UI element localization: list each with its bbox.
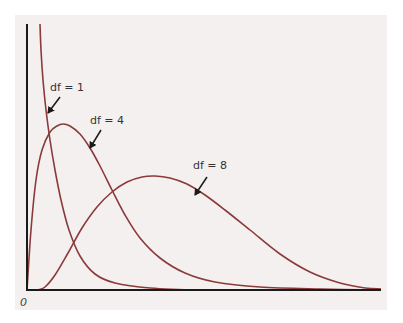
arrow-icon — [48, 97, 60, 113]
label-df-8: df = 8 — [193, 159, 227, 172]
origin-label: 0 — [20, 296, 27, 309]
label-df-1: df = 1 — [50, 81, 84, 94]
curves — [27, 24, 381, 290]
curve-df-4 — [27, 124, 381, 290]
arrow-icon — [90, 130, 101, 148]
curve-df-8 — [38, 176, 381, 290]
chi-square-chart: df = 1df = 4df = 8 0 — [0, 0, 403, 323]
label-df-4: df = 4 — [90, 114, 124, 127]
